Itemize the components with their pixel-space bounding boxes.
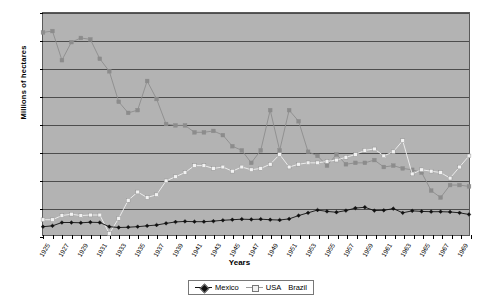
x-axis-tick-mark: [100, 235, 101, 239]
data-point: [344, 209, 348, 213]
data-point: [155, 223, 159, 227]
data-point: [249, 218, 253, 222]
x-axis-tick-mark: [91, 235, 92, 239]
data-point: [136, 108, 140, 112]
legend-entry-brazil[interactable]: Brazil: [288, 283, 307, 292]
data-point: [107, 225, 111, 229]
x-axis-tick-mark: [176, 235, 177, 239]
data-point: [401, 139, 405, 143]
data-point: [117, 226, 121, 230]
data-point: [79, 221, 83, 225]
data-point: [259, 148, 263, 152]
y-axis-title: Millions of hectares: [19, 8, 28, 158]
legend-marker-icon: [195, 284, 212, 291]
x-axis-tick-mark: [461, 235, 462, 239]
data-point: [287, 217, 291, 221]
x-axis-tick-mark: [195, 235, 196, 239]
data-point: [458, 211, 462, 215]
data-point: [212, 167, 216, 171]
data-point: [420, 168, 424, 172]
x-axis-tick-mark: [243, 235, 244, 239]
legend-entry-mexico[interactable]: Mexico: [195, 283, 239, 292]
data-point: [249, 161, 253, 165]
data-point: [88, 213, 92, 217]
x-axis-tick-mark: [72, 235, 73, 239]
data-point: [278, 218, 282, 222]
data-point: [98, 221, 102, 225]
data-point: [145, 196, 149, 200]
x-axis-tick-mark: [119, 235, 120, 239]
data-point: [202, 220, 206, 224]
data-point: [268, 108, 272, 112]
data-point: [174, 175, 178, 179]
x-axis-tick-mark: [271, 235, 272, 239]
series-line: [43, 31, 469, 197]
data-point: [117, 100, 121, 104]
data-point: [107, 69, 111, 73]
data-point: [221, 133, 225, 137]
x-axis-tick-mark: [433, 235, 434, 239]
x-axis-tick-mark: [233, 235, 234, 239]
data-point: [240, 165, 244, 169]
x-axis-tick-mark: [385, 235, 386, 239]
data-point: [249, 168, 253, 172]
data-point: [410, 172, 414, 176]
data-point: [88, 37, 92, 41]
data-point: [382, 165, 386, 169]
data-point: [230, 218, 234, 222]
data-point: [221, 165, 225, 169]
data-point: [401, 211, 405, 215]
data-point: [70, 212, 74, 216]
x-axis-tick-mark: [471, 235, 472, 239]
data-point: [420, 210, 424, 214]
series-layer: [43, 13, 469, 235]
data-point: [155, 193, 159, 197]
x-axis-tick-mark: [167, 235, 168, 239]
series-brazil: [41, 29, 471, 199]
data-point: [429, 210, 433, 214]
data-point: [155, 97, 159, 101]
x-axis-tick-mark: [357, 235, 358, 239]
data-point: [107, 232, 111, 236]
data-point: [145, 224, 149, 228]
data-point: [372, 158, 376, 162]
x-axis-tick-mark: [404, 235, 405, 239]
data-point: [363, 205, 367, 209]
data-point: [164, 221, 168, 225]
x-axis-tick-mark: [148, 235, 149, 239]
legend-label: Brazil: [288, 283, 307, 292]
data-point: [230, 169, 234, 173]
x-axis-tick-mark: [43, 235, 44, 239]
x-axis-tick-mark: [395, 235, 396, 239]
x-axis-tick-mark: [281, 235, 282, 239]
data-point: [439, 196, 443, 200]
data-point: [126, 111, 130, 115]
legend-entry-usa[interactable]: USA: [246, 283, 281, 292]
data-point: [193, 220, 197, 224]
data-point: [278, 148, 282, 152]
data-point: [448, 176, 452, 180]
data-point: [354, 153, 358, 157]
data-point: [268, 218, 272, 222]
data-point: [193, 130, 197, 134]
data-point: [306, 161, 310, 165]
data-point: [382, 208, 386, 212]
data-point: [117, 216, 121, 220]
data-point: [183, 124, 187, 128]
data-point: [316, 161, 320, 165]
data-point: [136, 225, 140, 229]
data-point: [174, 220, 178, 224]
data-point: [88, 220, 92, 224]
x-axis-tick-mark: [138, 235, 139, 239]
data-point: [98, 57, 102, 61]
chart-legend: MexicoUSABrazil: [188, 280, 314, 295]
data-point: [439, 210, 443, 214]
x-axis-tick-mark: [347, 235, 348, 239]
data-point: [259, 167, 263, 171]
data-point: [41, 31, 45, 35]
data-point: [372, 147, 376, 151]
data-point: [335, 158, 339, 162]
data-point: [51, 224, 55, 228]
data-point: [70, 40, 74, 44]
data-point: [98, 213, 102, 217]
